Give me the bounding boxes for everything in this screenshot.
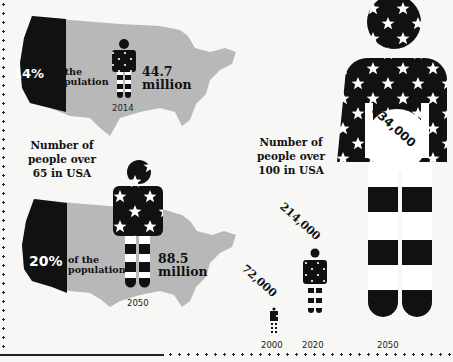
value-2050: 88.5 million — [158, 252, 208, 278]
value-line2: million — [142, 78, 192, 91]
person-flag-icon — [335, 0, 453, 338]
person-flag-icon — [303, 248, 327, 330]
person-flag-icon — [268, 307, 280, 337]
value-2020: 214,000 — [277, 200, 323, 243]
dotted-border-bottom — [166, 353, 453, 356]
percent-2050: 20% — [29, 253, 63, 269]
label-line2: population — [51, 77, 109, 87]
year-2050-65: 2050 — [127, 298, 149, 308]
value-2014: 44.7 million — [142, 65, 192, 91]
heading-line3: 100 in USA — [250, 163, 332, 177]
population-label-2014: of the population — [51, 67, 109, 87]
year-2014: 2014 — [112, 103, 134, 113]
person-flag-icon — [110, 38, 138, 104]
heading-over-65: Number of people over 65 in USA — [22, 138, 102, 180]
heading-over-100: Number of people over 100 in USA — [250, 135, 332, 177]
year-2050-100: 2050 — [377, 340, 399, 350]
solid-rule-bottom — [0, 354, 164, 356]
heading-line2: people over — [250, 149, 332, 163]
heading-line2: people over — [22, 152, 102, 166]
heading-line1: Number of — [250, 135, 332, 149]
heading-line1: Number of — [22, 138, 102, 152]
heading-line3: 65 in USA — [22, 166, 102, 180]
value-line2: million — [158, 265, 208, 278]
value-2000: 72,000 — [239, 262, 279, 300]
percent-2014: 14% — [13, 66, 44, 81]
year-2000: 2000 — [261, 340, 283, 350]
year-2020: 2020 — [302, 340, 324, 350]
dotted-border-left — [2, 0, 5, 350]
person-flag-icon — [112, 158, 164, 298]
